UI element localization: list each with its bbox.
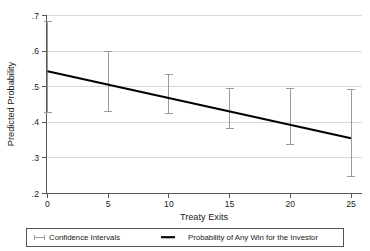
x-tick-label-5: 25 bbox=[346, 199, 356, 209]
x-tick-label-0: 0 bbox=[45, 199, 50, 209]
chart-legend: Confidence Intervals Probability of Any … bbox=[27, 229, 344, 247]
y-tick-label-5: .2 bbox=[32, 189, 39, 199]
y-tick-label-2: .5 bbox=[32, 82, 39, 92]
x-axis-title: Treaty Exits bbox=[180, 212, 229, 222]
y-axis-title: Predicted Probability bbox=[6, 61, 16, 146]
y-tick-label-4: .3 bbox=[32, 153, 39, 163]
y-tick-label-1: .6 bbox=[32, 46, 39, 56]
y-tick-label-3: .4 bbox=[32, 117, 39, 127]
chart-figure: .7 .6 .5 .4 .3 .2 Predicted Probability … bbox=[0, 0, 370, 251]
legend-label-confidence-intervals: Confidence Intervals bbox=[49, 233, 120, 242]
x-tick-label-1: 5 bbox=[106, 199, 111, 209]
x-tick-label-4: 20 bbox=[286, 199, 296, 209]
predicted-probability-chart: .7 .6 .5 .4 .3 .2 Predicted Probability … bbox=[0, 0, 370, 251]
x-tick-label-2: 10 bbox=[164, 199, 174, 209]
y-tick-label-0: .7 bbox=[32, 11, 39, 21]
x-tick-label-3: 15 bbox=[225, 199, 235, 209]
legend-label-probability-line: Probability of Any Win for the Investor bbox=[188, 233, 318, 242]
